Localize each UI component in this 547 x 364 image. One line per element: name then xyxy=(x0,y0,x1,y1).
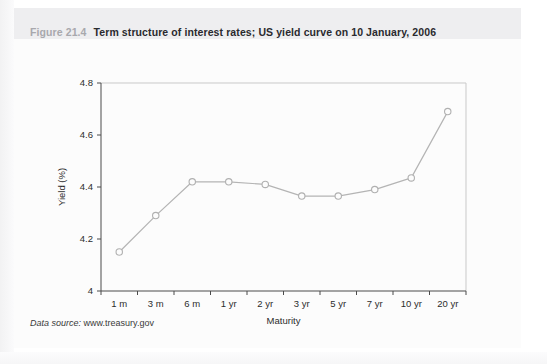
y-tick-label: 4.8 xyxy=(80,77,93,88)
x-tick-label: 1 m xyxy=(111,298,127,309)
page-margin-bottom xyxy=(0,352,547,364)
x-tick-label: 2 yr xyxy=(257,298,273,309)
data-point-marker xyxy=(116,249,122,255)
page-margin-right xyxy=(521,0,547,364)
plot-frame xyxy=(101,83,466,291)
x-tick-label: 10 yr xyxy=(401,298,422,309)
chart-plot-area: 44.24.44.64.8Yield (%)1 m3 m6 m1 yr2 yr3… xyxy=(14,39,521,348)
y-tick-label: 4.6 xyxy=(80,129,93,140)
series-line xyxy=(119,112,448,252)
page-title: Term structure of interest rates; US yie… xyxy=(94,26,437,38)
x-tick-label: 6 m xyxy=(184,298,200,309)
y-tick-label: 4.4 xyxy=(80,181,93,192)
data-point-marker xyxy=(335,193,341,199)
x-tick-label: 3 m xyxy=(148,298,164,309)
source-value: www.treasury.gov xyxy=(84,318,154,328)
x-tick-label: 3 yr xyxy=(294,298,310,309)
x-tick-label: 5 yr xyxy=(330,298,346,309)
figure-card: Figure 21.4Term structure of interest ra… xyxy=(14,8,521,348)
data-source-note: Data source: www.treasury.gov xyxy=(30,318,154,328)
page-margin-left xyxy=(0,0,14,364)
x-tick-label: 20 yr xyxy=(437,298,458,309)
data-point-marker xyxy=(153,212,159,218)
source-label: Data source: xyxy=(30,318,81,328)
data-point-marker xyxy=(372,186,378,192)
y-tick-label: 4.2 xyxy=(80,233,93,244)
yield-curve-chart: 44.24.44.64.8Yield (%)1 m3 m6 m1 yr2 yr3… xyxy=(14,39,521,348)
x-tick-label: 1 yr xyxy=(221,298,237,309)
y-tick-label: 4 xyxy=(88,285,93,296)
data-point-marker xyxy=(189,179,195,185)
data-point-marker xyxy=(408,175,414,181)
data-point-marker xyxy=(262,181,268,187)
data-point-marker xyxy=(445,108,451,114)
x-axis-title: Maturity xyxy=(267,315,301,326)
figure-number: Figure 21.4 xyxy=(30,26,87,38)
y-axis-title: Yield (%) xyxy=(56,168,67,206)
figure-caption: Figure 21.4Term structure of interest ra… xyxy=(30,26,436,38)
figure-page: Figure 21.4Term structure of interest ra… xyxy=(0,0,547,364)
data-point-marker xyxy=(226,179,232,185)
data-point-marker xyxy=(299,193,305,199)
x-tick-label: 7 yr xyxy=(367,298,383,309)
